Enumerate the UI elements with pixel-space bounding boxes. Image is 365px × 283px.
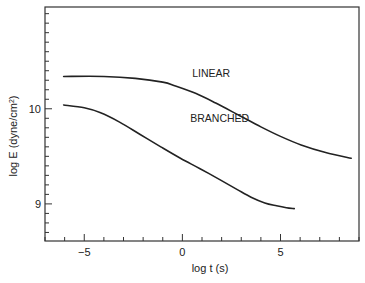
x-tick-label: 5 (277, 246, 283, 258)
y-tick-label: 9 (35, 198, 41, 210)
linear-label: LINEAR (192, 67, 230, 79)
x-tick-label: −5 (78, 246, 91, 258)
x-tick-label: 0 (179, 246, 185, 258)
x-axis-label: log t (s) (192, 262, 229, 274)
branched-label: BRANCHED (190, 112, 249, 124)
y-tick-label: 10 (29, 103, 41, 115)
y-axis-label: log E (dyne/cm2) (7, 96, 19, 177)
chart: −505910 LINEARBRANCHED log t (s) log E (… (0, 0, 365, 283)
tick-labels: −505910 (29, 103, 284, 258)
branched-curve (64, 105, 295, 209)
tick-marks (45, 14, 359, 241)
series-lines (64, 76, 352, 208)
